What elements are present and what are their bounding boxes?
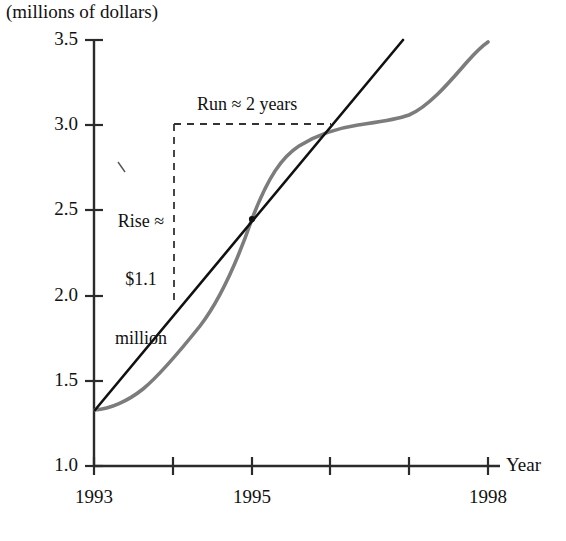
y-tick-label-1-0: 1.0 — [34, 455, 78, 476]
rise-annotation-label: Rise ≈ $1.1 million — [104, 173, 178, 387]
rise-annotation-line-2: $1.1 — [104, 270, 178, 289]
axis-unit-label: (millions of dollars) — [6, 2, 158, 23]
run-annotation-label: Run ≈ 2 years — [197, 95, 297, 114]
rise-annotation-line-3: million — [104, 329, 178, 348]
rise-pointer-tick — [118, 162, 125, 172]
x-axis-title: Year — [506, 455, 541, 476]
rise-annotation-line-1: Rise ≈ — [104, 212, 178, 231]
chart-plot-area — [0, 0, 566, 541]
x-tick-label-1998: 1998 — [458, 487, 518, 508]
y-tick-label-2-5: 2.5 — [34, 199, 78, 220]
y-tick-label-3-5: 3.5 — [34, 29, 78, 50]
y-tick-label-3-0: 3.0 — [34, 114, 78, 135]
chart-container: (millions of dollars) 3.5 3.0 2.5 2.0 1.… — [0, 0, 566, 541]
y-tick-label-1-5: 1.5 — [34, 370, 78, 391]
tangent-point-marker — [249, 216, 255, 222]
x-tick-label-1993: 1993 — [64, 487, 124, 508]
x-tick-label-1995: 1995 — [222, 487, 282, 508]
y-tick-label-2-0: 2.0 — [34, 285, 78, 306]
